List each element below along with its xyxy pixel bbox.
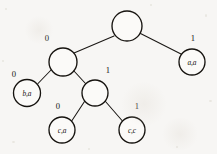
edge-label-mid-ca: 0 (56, 101, 60, 111)
scan-smudge (120, 82, 168, 126)
scan-speck (88, 148, 90, 150)
scan-speck (12, 141, 15, 143)
node-label-leaf-ca: c,a (58, 126, 67, 135)
node-mid-internal[interactable] (82, 80, 108, 106)
scan-speck (2, 60, 4, 62)
scan-speck (150, 4, 152, 6)
node-left-internal[interactable] (49, 48, 77, 76)
edge-mid-to-leaf-ca (72, 102, 85, 121)
scan-speck (176, 146, 178, 148)
edge-left-to-leaf-ba (38, 70, 52, 84)
node-root[interactable] (112, 11, 142, 41)
scan-speck (209, 100, 212, 102)
node-label-leaf-ba: b,a (23, 89, 32, 98)
scan-smudge (24, 16, 54, 44)
tree-figure: a,a b,a c,a c,c 0 1 0 1 0 1 (0, 0, 217, 154)
scan-speck (5, 8, 7, 10)
scan-speck (205, 14, 207, 17)
edge-label-root-right: 1 (191, 33, 195, 43)
node-label-leaf-aa: a,a (188, 58, 197, 67)
edge-root-to-left-child (74, 36, 114, 53)
edge-label-left-mid: 1 (106, 65, 110, 75)
edge-root-to-right-leaf (141, 34, 183, 55)
edge-label-left-ba: 0 (12, 69, 16, 79)
node-label-leaf-cc: c,c (128, 126, 137, 135)
scan-smudge (160, 118, 200, 150)
edge-left-to-mid (74, 71, 86, 84)
